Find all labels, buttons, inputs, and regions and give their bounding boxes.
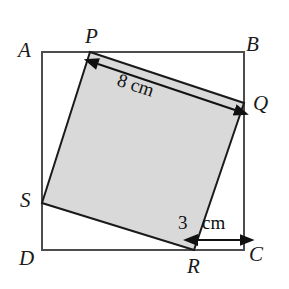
vertex-label-c: C [249,244,263,265]
dimension-label-cm-unit: cm [202,213,225,232]
geometry-figure: A B P Q S D R C 8 cm 3 cm [0,0,289,289]
vertex-label-r: R [187,256,200,277]
vertex-label-d: D [19,248,34,269]
vertex-label-a: A [18,40,31,61]
vertex-label-q: Q [253,93,268,114]
vertex-label-s: S [20,190,31,211]
vertex-label-p: P [85,26,98,47]
dimension-label-3: 3 [178,213,188,232]
vertex-label-b: B [246,34,259,55]
